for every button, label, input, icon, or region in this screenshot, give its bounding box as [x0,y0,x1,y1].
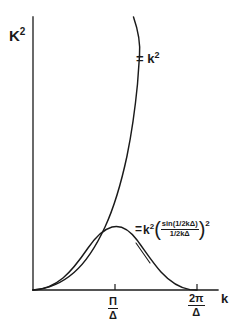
annotation-sinc-paren-open: ( [154,219,161,239]
annotation-sinc-k: k2 [143,223,154,236]
annotation-sinc-paren-close: ) [199,219,206,239]
annotation-sinc-squared: = k2 ( sin(1/2kΔ) 1/2kΔ ) 2 [135,219,210,239]
annotation-sinc-denominator-kdelta: kΔ [180,229,190,238]
annotation-sinc-numerator-half: 1/2 [175,219,185,228]
x-tick-label-two-pi-over-delta-denominator: Δ [192,306,200,318]
annotation-sinc-numerator-sin: sin [162,219,173,228]
x-tick-label-pi-over-delta-numerator: Π [108,296,118,309]
annotation-sinc-denominator-half: 1/2 [170,229,180,238]
annotation-sinc-denominator: 1/2kΔ [169,230,191,238]
x-tick-label-pi-over-delta-denominator: Δ [109,309,117,321]
y-axis-label: K2 [9,27,25,43]
leader-line-sinc-label [136,243,150,263]
annotation-sinc-numerator-arg-close: ) [195,219,198,228]
figure-panel: K2 k = k2 = k2 ( sin(1/2kΔ) 1/2kΔ ) 2 Π … [0,0,241,335]
x-tick-label-two-pi-over-delta: 2π Δ [188,293,205,318]
x-tick-label-two-pi-over-delta-numerator: 2π [188,293,205,306]
x-tick-label-pi-over-delta: Π Δ [108,296,118,321]
annotation-k-squared-text: = k [136,51,154,66]
annotation-sinc-fraction: sin(1/2kΔ) 1/2kΔ [161,220,199,238]
annotation-sinc-numerator-kdelta: kΔ [186,219,196,228]
annotation-k-squared: = k2 [136,51,159,65]
annotation-k-squared-exponent: 2 [154,50,159,60]
annotation-sinc-k-text: k [143,223,150,237]
annotation-sinc-equals: = [135,223,142,235]
annotation-sinc-outer-exponent: 2 [205,220,209,228]
curve-k-squared [33,56,140,290]
plot-canvas [0,0,241,335]
y-axis-label-text: K [9,27,20,44]
x-axis-label: k [221,292,228,305]
y-axis-label-exponent: 2 [20,26,26,37]
